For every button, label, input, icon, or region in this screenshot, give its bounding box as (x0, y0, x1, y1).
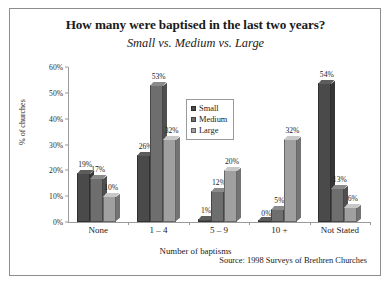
y-axis-tick-mark (65, 144, 68, 145)
y-axis-tick-mark (65, 92, 68, 93)
bar-small-0 (77, 173, 90, 222)
y-axis-tick-mark (65, 222, 68, 223)
bar-medium-4 (331, 188, 344, 222)
x-axis-line (68, 222, 371, 223)
bar-value-label: 13% (333, 175, 347, 184)
y-axis-tick-mark (65, 118, 68, 119)
x-axis-tick-mark (310, 222, 311, 225)
y-axis-tick-mark (65, 67, 68, 68)
bar-medium-2 (211, 191, 224, 222)
legend-label: Large (199, 125, 218, 136)
x-axis-category-label: 1 – 4 (150, 225, 168, 235)
bar-small-4 (318, 83, 331, 223)
legend-item-small: Small (191, 103, 227, 114)
bar-large-4 (344, 207, 357, 223)
x-axis-category-label: None (88, 225, 108, 235)
legend-item-medium: Medium (191, 114, 227, 125)
legend-item-large: Large (191, 125, 227, 136)
legend-label: Medium (199, 114, 227, 125)
bar-medium-3 (271, 209, 284, 222)
bar-small-3 (258, 220, 271, 222)
bar-value-label: 10% (104, 183, 118, 192)
bar-side-face (237, 168, 241, 221)
bar-medium-0 (90, 178, 103, 222)
legend-swatch-icon (191, 117, 196, 122)
chart-legend: SmallMediumLarge (186, 99, 234, 140)
legend-swatch-icon (191, 128, 196, 133)
bar-value-label: 32% (165, 126, 179, 135)
bar-medium-1 (150, 85, 163, 222)
bar-side-face (176, 137, 180, 221)
bar-side-face (357, 204, 361, 221)
x-axis-tick-mark (128, 222, 129, 225)
legend-swatch-icon (191, 106, 196, 111)
legend-label: Small (199, 103, 219, 114)
x-axis-tick-mark (370, 222, 371, 225)
bar-value-label: 17% (91, 165, 105, 174)
y-axis-tick-mark (65, 196, 68, 197)
chart-figure: How many were baptised in the last two y… (0, 0, 391, 286)
plot-area: 0%10%20%30%40%50%60%19%17%10%26%53%32%1%… (68, 67, 370, 222)
x-axis-tick-mark (249, 222, 250, 225)
bar-large-3 (284, 139, 297, 222)
y-axis-tick-mark (65, 170, 68, 171)
bar-small-2 (198, 219, 211, 222)
bar-value-label: 20% (225, 157, 239, 166)
x-axis-label: Number of baptisms (0, 246, 391, 256)
bar-value-label: 19% (78, 160, 92, 169)
x-axis-tick-mark (189, 222, 190, 225)
bar-value-label: 6% (348, 194, 358, 203)
chart-title: How many were baptised in the last two y… (0, 17, 391, 33)
bar-value-label: 54% (320, 70, 334, 79)
y-axis-label: % of churches (18, 99, 27, 145)
x-axis-category-label: Not Stated (321, 225, 359, 235)
x-axis-category-label: 5 – 9 (210, 225, 228, 235)
bar-side-face (297, 137, 301, 221)
chart-subtitle: Small vs. Medium vs. Large (0, 36, 391, 51)
bar-side-face (116, 194, 120, 221)
bar-large-2 (224, 170, 237, 222)
bar-small-1 (137, 155, 150, 222)
bar-value-label: 32% (285, 126, 299, 135)
x-axis-category-label: 10 + (271, 225, 287, 235)
source-note: Source: 1998 Surveys of Brethren Churche… (219, 256, 367, 265)
bar-large-0 (103, 196, 116, 222)
bar-value-label: 53% (152, 72, 166, 81)
bar-large-1 (163, 139, 176, 222)
